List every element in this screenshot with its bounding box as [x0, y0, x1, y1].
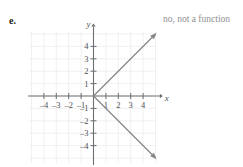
x-tick-label: 4 — [141, 100, 146, 110]
y-tick-label: 2 — [84, 66, 88, 76]
data-ray — [94, 34, 156, 96]
plot-svg: –4–3–2–112344321–1–2–3–4 xy — [0, 0, 243, 167]
grid-lines — [29, 32, 155, 163]
x-tick-label: 3 — [129, 100, 133, 110]
figure-panel: e. no, not a function –4–3–2–112344321–1… — [0, 0, 243, 167]
y-axis-arrowhead — [91, 24, 95, 27]
x-tick-label: –2 — [63, 100, 73, 110]
x-axis-arrowhead — [160, 94, 163, 98]
y-tick-label: –3 — [79, 128, 89, 138]
y-tick-label: –4 — [79, 141, 89, 151]
x-tick-label: 2 — [116, 100, 120, 110]
y-tick-label: –2 — [79, 116, 89, 126]
y-tick-label: 3 — [84, 54, 88, 64]
x-tick-label: –4 — [39, 100, 49, 110]
y-tick-label: –1 — [79, 103, 89, 113]
data-ray — [94, 96, 156, 158]
axis-names: xy — [86, 19, 169, 103]
x-tick-label: –3 — [51, 100, 61, 110]
y-axis-label: y — [86, 19, 91, 29]
y-tick-label: 1 — [84, 79, 88, 89]
coordinate-plot: –4–3–2–112344321–1–2–3–4 xy — [0, 0, 243, 167]
x-axis-label: x — [164, 93, 169, 103]
